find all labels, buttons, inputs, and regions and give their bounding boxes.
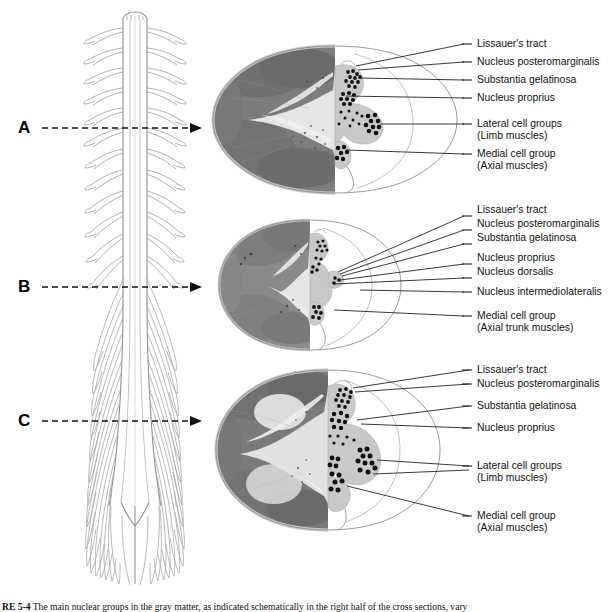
callout-a-nucleus-proprius: Nucleus proprius	[477, 92, 555, 105]
callout-dashes-a	[462, 38, 474, 198]
callout-b-nucleus-dorsalis: Nucleus dorsalis	[477, 266, 553, 279]
leader-lines-c	[335, 364, 475, 544]
section-arrow-c	[40, 413, 210, 429]
callout-a-substantia-gelatinosa: Substantia gelatinosa	[477, 74, 576, 87]
callout-b-nucleus-posteromarginalis: Nucleus posteromarginalis	[477, 218, 599, 231]
callout-c-medial-cell-group: Medial cell group	[477, 510, 556, 523]
leader-lines-a	[340, 38, 470, 198]
leader-lines-b	[320, 214, 470, 356]
section-letter-b: B	[18, 278, 30, 295]
section-letter-c: C	[18, 412, 30, 429]
callout-a-medial-cell-group: Medial cell group	[477, 148, 556, 161]
callout-b-medial-cell-group: Medial cell group	[477, 310, 556, 323]
callout-c-substantia-gelatinosa: Substantia gelatinosa	[477, 400, 576, 413]
spinal-cord-figure: A B C	[0, 0, 613, 612]
micrograph-half-b	[215, 214, 325, 356]
callout-c-medial-cell-group-sub: (Axial muscles)	[477, 522, 547, 535]
micrograph-half-c	[210, 364, 338, 536]
figure-caption-number: RE 5-4	[2, 601, 31, 612]
callout-a-lateral-cell-groups-sub: (Limb muscles)	[477, 130, 547, 143]
callout-b-nucleus-intermediolateralis: Nucleus intermediolateralis	[477, 286, 602, 299]
figure-caption: RE 5-4 The main nuclear groups in the gr…	[2, 601, 467, 612]
callout-b-lissauers-tract: Lissauer's tract	[477, 204, 547, 217]
callout-a-lissauers-tract: Lissauer's tract	[477, 38, 547, 51]
section-arrow-a	[40, 120, 210, 136]
micrograph-half-a	[205, 38, 345, 198]
callout-a-nucleus-posteromarginalis: Nucleus posteromarginalis	[477, 56, 599, 69]
callout-dashes-c	[462, 362, 474, 542]
callout-b-nucleus-proprius: Nucleus proprius	[477, 252, 555, 265]
callout-dashes-b	[462, 212, 474, 362]
callout-c-nucleus-posteromarginalis: Nucleus posteromarginalis	[477, 378, 599, 391]
callout-c-lateral-cell-groups: Lateral cell groups	[477, 460, 562, 473]
callout-c-lissauers-tract: Lissauer's tract	[477, 364, 547, 377]
callout-b-medial-cell-group-sub: (Axial trunk muscles)	[477, 322, 573, 335]
callout-c-nucleus-proprius: Nucleus proprius	[477, 422, 555, 435]
figure-caption-text: The main nuclear groups in the gray matt…	[33, 601, 468, 612]
callout-a-medial-cell-group-sub: (Axial muscles)	[477, 160, 547, 173]
section-letter-a: A	[18, 119, 30, 136]
callout-c-lateral-cell-groups-sub: (Limb muscles)	[477, 472, 547, 485]
section-arrow-b	[40, 279, 210, 295]
callout-a-lateral-cell-groups: Lateral cell groups	[477, 118, 562, 131]
callout-b-substantia-gelatinosa: Substantia gelatinosa	[477, 232, 576, 245]
spinal-cord-dorsal-view	[60, 6, 210, 586]
